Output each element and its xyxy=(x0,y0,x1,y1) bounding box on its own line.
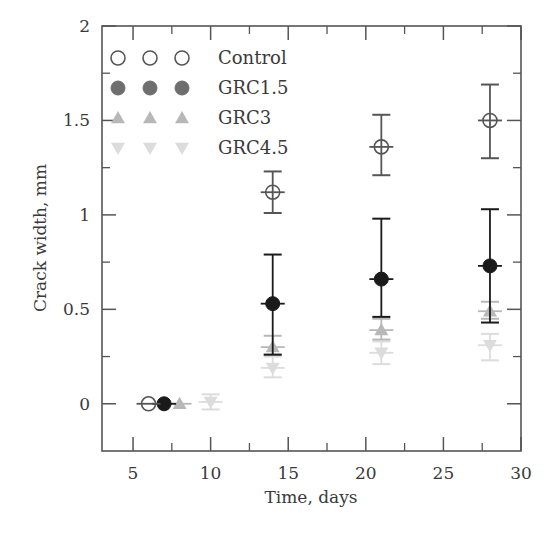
x-tick-label: 30 xyxy=(510,463,532,483)
legend-label: GRC3 xyxy=(218,107,271,128)
triangle-down-marker xyxy=(175,143,189,155)
series-grc3 xyxy=(168,302,502,409)
plot-frame xyxy=(102,26,521,451)
crack-width-chart: 51015202530 00.511.52 Time, days Crack w… xyxy=(0,0,560,537)
x-axis-title: Time, days xyxy=(264,487,357,507)
legend: Control GRC1.5 GRC3 GRC4.5 xyxy=(111,47,288,158)
y-tick-label: 1.5 xyxy=(63,110,90,130)
open-circle-marker xyxy=(175,51,189,65)
legend-item-grc4-5: GRC4.5 xyxy=(111,137,288,158)
plot-border xyxy=(102,26,521,451)
x-tick-label: 25 xyxy=(433,463,455,483)
triangle-up-marker xyxy=(111,111,125,123)
y-tick-labels: 00.511.52 xyxy=(63,16,90,414)
data-series xyxy=(137,85,502,411)
triangle-down-marker xyxy=(111,143,125,155)
y-tick-label: 2 xyxy=(79,16,90,36)
triangle-up-marker xyxy=(143,111,157,123)
x-tick-label: 10 xyxy=(200,463,222,483)
series-grc4-5 xyxy=(199,334,502,410)
legend-label: GRC4.5 xyxy=(218,137,288,158)
filled-circle-marker xyxy=(266,297,280,311)
series-control xyxy=(137,85,502,411)
y-tick-label: 0 xyxy=(79,394,90,414)
filled-circle-marker xyxy=(483,259,497,273)
triangle-down-marker xyxy=(143,143,157,155)
open-circle-marker xyxy=(111,51,125,65)
legend-label: GRC1.5 xyxy=(218,77,288,98)
legend-item-control: Control xyxy=(111,47,287,68)
filled-circle-marker xyxy=(111,81,125,95)
x-tick-label: 15 xyxy=(277,463,299,483)
open-circle-marker xyxy=(143,51,157,65)
triangle-up-marker xyxy=(175,111,189,123)
series-grc1-5 xyxy=(152,209,502,411)
y-axis-title: Crack width, mm xyxy=(30,164,50,312)
y-tick-label: 1 xyxy=(79,205,90,225)
filled-circle-icon xyxy=(111,81,189,95)
legend-item-grc3: GRC3 xyxy=(111,107,271,128)
triangle-up-icon xyxy=(111,111,189,123)
x-tick-label: 20 xyxy=(355,463,377,483)
legend-item-grc1-5: GRC1.5 xyxy=(111,77,288,98)
x-tick-labels: 51015202530 xyxy=(128,463,532,483)
y-tick-label: 0.5 xyxy=(63,299,90,319)
legend-label: Control xyxy=(218,47,287,68)
x-tick-label: 5 xyxy=(128,463,139,483)
open-circle-icon xyxy=(111,51,189,65)
axis-ticks xyxy=(102,26,521,451)
filled-circle-marker xyxy=(175,81,189,95)
filled-circle-marker xyxy=(143,81,157,95)
filled-circle-marker xyxy=(374,272,388,286)
triangle-down-icon xyxy=(111,143,189,155)
